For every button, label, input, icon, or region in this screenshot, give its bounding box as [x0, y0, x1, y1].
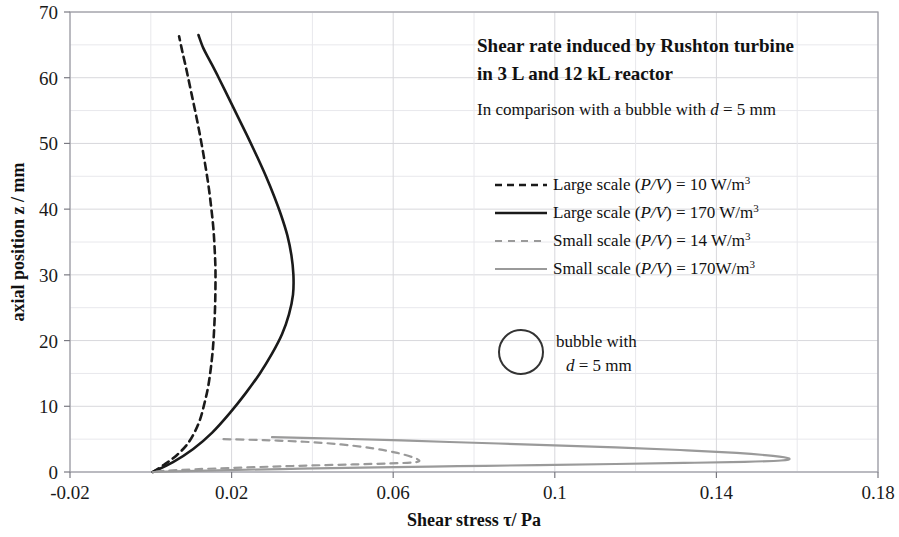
- x-axis-tick-labels: -0.020.020.060.10.140.18: [50, 472, 894, 503]
- x-tick-label: 0.06: [377, 482, 410, 503]
- y-tick-label: 0: [49, 462, 59, 483]
- y-tick-label: 70: [39, 2, 58, 23]
- legend-label-0: Large scale (P/V) = 10 W/m3: [553, 174, 751, 194]
- chart-subtitle: In comparison with a bubble with d = 5 m…: [477, 100, 776, 119]
- x-tick-label: 0.1: [543, 482, 567, 503]
- x-tick-label: 0.02: [215, 482, 248, 503]
- x-tick-label: -0.02: [50, 482, 90, 503]
- x-axis-title: Shear stress τ/ Pa: [407, 510, 541, 530]
- legend-label-2: Small scale (P/V) = 14 W/m3: [553, 230, 751, 250]
- chart-title-line1: Shear rate induced by Rushton turbine: [477, 35, 794, 56]
- y-tick-label: 10: [39, 396, 58, 417]
- y-tick-label: 20: [39, 331, 58, 352]
- y-tick-label: 60: [39, 68, 58, 89]
- y-tick-label: 40: [39, 199, 58, 220]
- shear-stress-chart: 010203040506070 -0.020.020.060.10.140.18…: [0, 0, 899, 537]
- y-tick-label: 50: [39, 133, 58, 154]
- bubble-label-line2: d = 5 mm: [566, 356, 632, 375]
- bubble-label-line1: bubble with: [556, 332, 637, 351]
- chart-page: 010203040506070 -0.020.020.060.10.140.18…: [0, 0, 899, 537]
- legend-label-3: Small scale (P/V) = 170W/m3: [553, 258, 756, 278]
- x-tick-label: 0.14: [700, 482, 734, 503]
- legend-label-1: Large scale (P/V) = 170 W/m3: [553, 202, 759, 222]
- chart-title-line2: in 3 L and 12 kL reactor: [477, 63, 674, 84]
- y-axis-title: axial position z / mm: [8, 162, 28, 321]
- y-tick-label: 30: [39, 265, 58, 286]
- y-axis-tick-labels: 010203040506070: [39, 2, 70, 483]
- x-tick-label: 0.18: [861, 482, 894, 503]
